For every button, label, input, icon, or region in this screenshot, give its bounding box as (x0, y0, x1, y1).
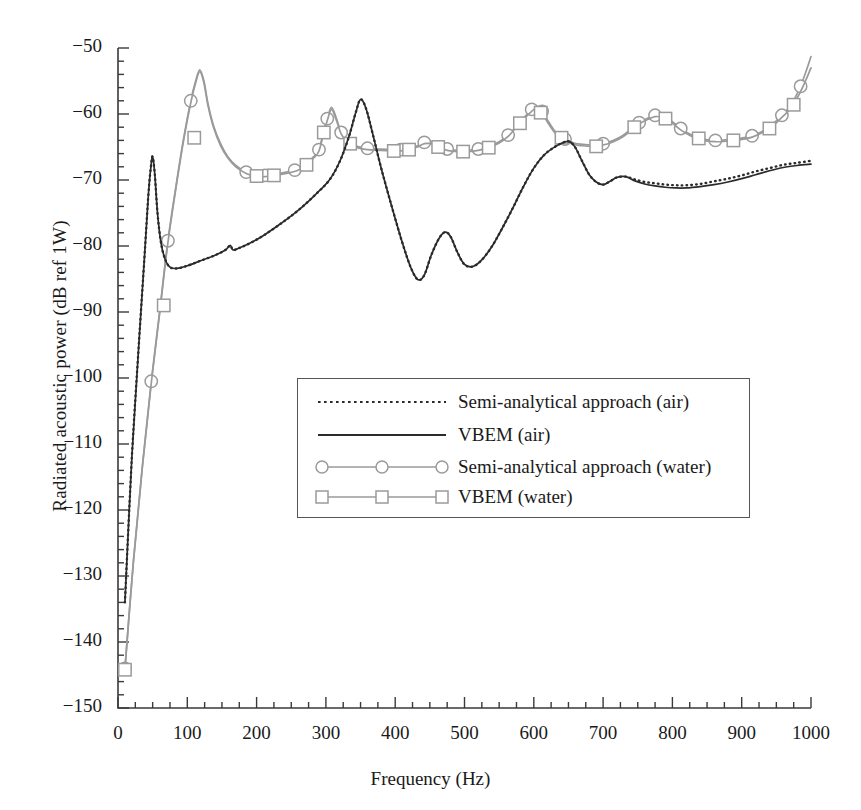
legend-sample-circle-line (312, 452, 452, 482)
y-tick-label: −120 (22, 497, 102, 519)
legend-label: VBEM (air) (458, 420, 550, 450)
x-axis-title: Frequency (Hz) (0, 768, 861, 790)
y-tick-label: −80 (22, 233, 102, 255)
legend-row[interactable]: VBEM (water) (298, 482, 751, 512)
y-tick-label: −50 (22, 35, 102, 57)
y-tick-label: −70 (22, 167, 102, 189)
y-tick-label: −100 (22, 365, 102, 387)
y-tick-label: −150 (22, 695, 102, 717)
x-tick-label: 900 (702, 722, 782, 744)
x-tick-label: 100 (147, 722, 227, 744)
x-tick-label: 700 (563, 722, 643, 744)
x-tick-label: 0 (78, 722, 158, 744)
x-tick-label: 600 (494, 722, 574, 744)
series-none-1 (125, 99, 811, 602)
x-tick-label: 1000 (771, 722, 851, 744)
legend-label: VBEM (water) (458, 482, 573, 512)
x-tick-label: 500 (425, 722, 505, 744)
series-square-3 (119, 68, 811, 676)
series-none-0 (125, 99, 811, 602)
legend-row[interactable]: Semi-analytical approach (air) (298, 387, 751, 417)
y-tick-label: −60 (22, 101, 102, 123)
legend-row[interactable]: VBEM (air) (298, 420, 751, 450)
y-tick-label: −140 (22, 629, 102, 651)
y-tick-label: −130 (22, 563, 102, 585)
legend-sample-square-line (312, 482, 452, 512)
y-tick-label: −90 (22, 299, 102, 321)
x-tick-label: 800 (632, 722, 712, 744)
x-tick-label: 300 (286, 722, 366, 744)
x-tick-label: 200 (217, 722, 297, 744)
legend-label: Semi-analytical approach (water) (458, 452, 711, 482)
legend: Semi-analytical approach (air) VBEM (air… (297, 378, 750, 518)
y-tick-label: −110 (22, 431, 102, 453)
legend-sample-dotted-line (312, 387, 452, 417)
legend-row[interactable]: Semi-analytical approach (water) (298, 452, 751, 482)
x-tick-label: 400 (355, 722, 435, 744)
chart-figure: Radiated acoustic power (dB ref 1W) Freq… (0, 0, 861, 810)
legend-label: Semi-analytical approach (air) (458, 387, 689, 417)
legend-sample-solid-line (312, 420, 452, 450)
